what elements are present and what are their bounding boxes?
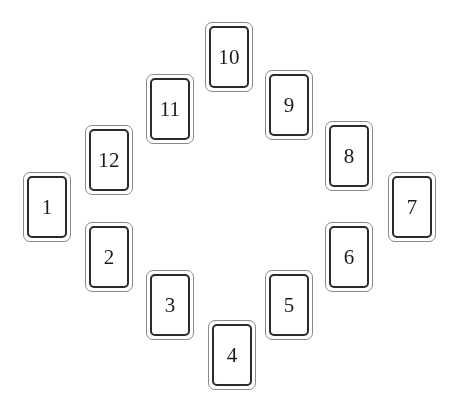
card-face: 2 <box>89 226 129 288</box>
card-face: 7 <box>392 176 432 238</box>
card-5[interactable]: 5 <box>265 270 313 340</box>
card-number-label: 10 <box>218 46 239 67</box>
card-number-label: 4 <box>227 344 238 365</box>
card-face: 10 <box>209 26 249 88</box>
card-face: 1 <box>27 176 67 238</box>
card-12[interactable]: 12 <box>85 125 133 195</box>
card-face: 9 <box>269 74 309 136</box>
card-number-label: 9 <box>284 94 295 115</box>
card-face: 12 <box>89 129 129 191</box>
card-face: 3 <box>150 274 190 336</box>
card-face: 8 <box>329 125 369 187</box>
card-number-label: 2 <box>104 246 115 267</box>
card-3[interactable]: 3 <box>146 270 194 340</box>
card-number-label: 7 <box>407 196 418 217</box>
card-number-label: 6 <box>344 246 355 267</box>
card-spread-canvas: 123456789101112 <box>0 0 453 408</box>
card-number-label: 11 <box>160 98 181 119</box>
card-number-label: 12 <box>98 149 119 170</box>
card-number-label: 5 <box>284 294 295 315</box>
card-number-label: 1 <box>42 196 53 217</box>
card-face: 11 <box>150 78 190 140</box>
card-number-label: 8 <box>344 145 355 166</box>
card-8[interactable]: 8 <box>325 121 373 191</box>
card-11[interactable]: 11 <box>146 74 194 144</box>
card-6[interactable]: 6 <box>325 222 373 292</box>
card-4[interactable]: 4 <box>208 320 256 390</box>
card-number-label: 3 <box>165 294 176 315</box>
card-9[interactable]: 9 <box>265 70 313 140</box>
card-2[interactable]: 2 <box>85 222 133 292</box>
card-7[interactable]: 7 <box>388 172 436 242</box>
card-1[interactable]: 1 <box>23 172 71 242</box>
card-face: 5 <box>269 274 309 336</box>
card-face: 4 <box>212 324 252 386</box>
card-face: 6 <box>329 226 369 288</box>
card-10[interactable]: 10 <box>205 22 253 92</box>
